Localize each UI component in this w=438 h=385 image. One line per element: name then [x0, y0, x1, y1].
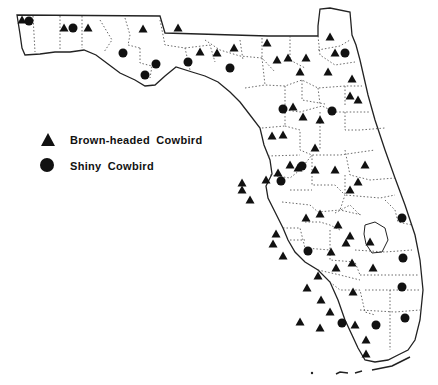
brown-headed-cowbird-marker — [326, 308, 335, 316]
shiny-cowbird-marker — [279, 105, 288, 114]
circle-icon — [40, 158, 54, 172]
brown-headed-cowbird-marker — [317, 296, 326, 304]
brown-headed-cowbird-marker — [296, 318, 305, 326]
legend-label: Shiny Cowbird — [70, 160, 154, 172]
legend: Brown-headed Cowbird Shiny Cowbird — [40, 127, 202, 179]
shiny-cowbird-marker — [184, 58, 193, 67]
shiny-cowbird-marker — [25, 17, 34, 26]
shiny-cowbird-marker — [372, 321, 381, 330]
brown-headed-cowbird-marker — [238, 179, 247, 187]
shiny-cowbird-marker — [304, 247, 313, 256]
shiny-cowbird-marker — [401, 314, 410, 323]
brown-headed-cowbird-marker — [269, 240, 278, 248]
shiny-cowbird-marker — [399, 254, 408, 263]
brown-headed-cowbird-marker — [174, 24, 183, 32]
brown-headed-cowbird-marker — [238, 186, 247, 194]
shiny-cowbird-marker — [338, 319, 347, 328]
brown-headed-cowbird-marker — [246, 196, 255, 204]
shiny-cowbird-marker — [119, 49, 128, 58]
florida-county-map — [0, 0, 438, 385]
triangle-icon — [41, 133, 55, 146]
brown-headed-cowbird-marker — [316, 324, 325, 332]
shiny-cowbird-marker — [141, 71, 150, 80]
legend-label: Brown-headed Cowbird — [70, 134, 202, 146]
shiny-cowbird-marker — [328, 107, 337, 116]
key-islet — [311, 372, 313, 374]
shiny-cowbird-marker — [69, 24, 78, 33]
shiny-cowbird-marker — [398, 214, 407, 223]
shiny-cowbird-marker — [398, 283, 407, 292]
shiny-cowbird-marker — [277, 177, 286, 186]
shiny-cowbird-marker — [298, 162, 307, 171]
brown-headed-cowbird-marker — [279, 252, 288, 260]
brown-headed-cowbird-marker — [272, 230, 281, 238]
brown-headed-cowbird-marker — [303, 284, 312, 292]
legend-item-brown-headed-cowbird: Brown-headed Cowbird — [40, 127, 202, 153]
legend-item-shiny-cowbird: Shiny Cowbird — [40, 153, 202, 179]
shiny-cowbird-marker — [152, 60, 161, 69]
shiny-cowbird-marker — [341, 49, 350, 58]
shiny-cowbird-marker — [226, 64, 235, 73]
